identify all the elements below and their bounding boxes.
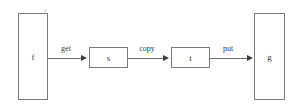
node-t[interactable]: t (171, 47, 210, 68)
edge-get-label: get (56, 44, 76, 53)
edge-put-arrowhead (247, 55, 253, 61)
node-s[interactable]: s (89, 47, 128, 68)
node-f[interactable]: f (18, 13, 48, 100)
node-f-label: f (32, 52, 35, 62)
edge-get-line (48, 58, 81, 59)
edge-copy-label: copy (134, 44, 160, 53)
edge-copy-arrowhead (163, 55, 169, 61)
node-t-label: t (189, 53, 192, 63)
node-s-label: s (107, 53, 111, 63)
node-g[interactable]: g (254, 13, 285, 100)
edge-put-label: put (217, 44, 239, 53)
edge-put-line (210, 58, 247, 59)
node-g-label: g (267, 52, 272, 62)
edge-get-arrowhead (81, 55, 87, 61)
diagram-canvas: f get s copy t put g (0, 0, 300, 106)
scan-artifact-speck (44, 9, 47, 12)
edge-copy-line (128, 58, 163, 59)
